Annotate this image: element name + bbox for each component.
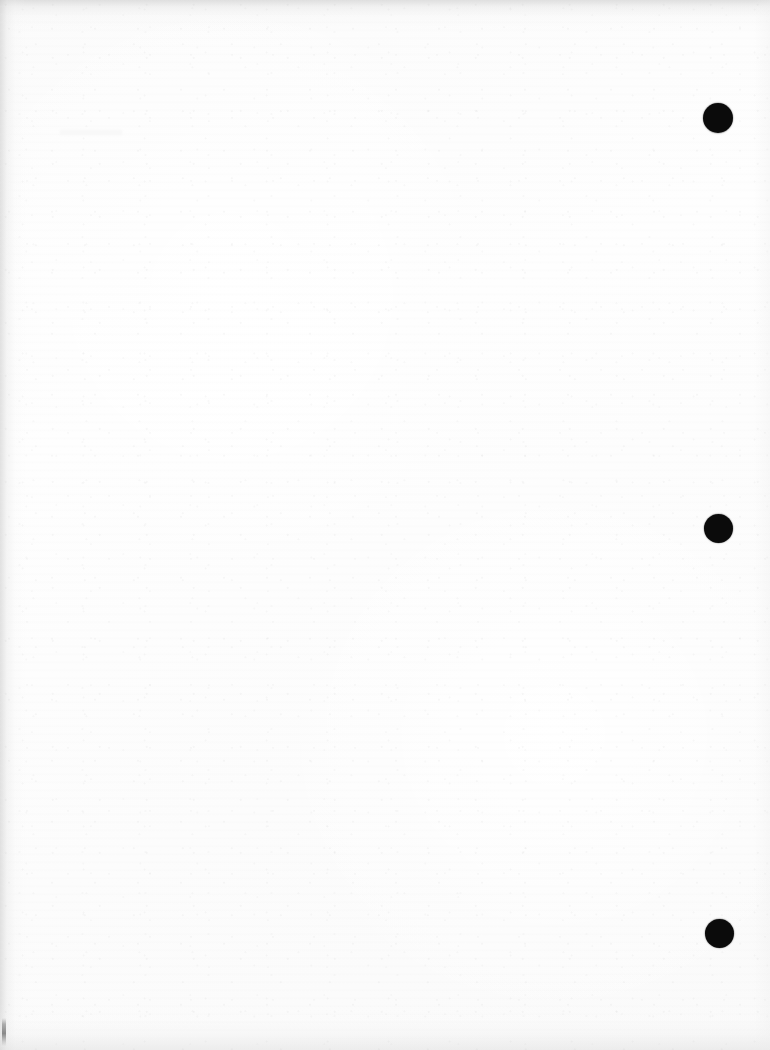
edge-tick-mark <box>2 1018 6 1046</box>
paper-grain-texture <box>0 0 770 1050</box>
scan-banding-texture <box>0 0 770 1050</box>
scan-edge-shadow-left <box>0 0 26 1050</box>
faint-smudge-mark <box>60 130 122 135</box>
scan-edge-shadow-top <box>0 0 770 30</box>
registration-dot <box>705 919 734 948</box>
scanned-page <box>0 0 770 1050</box>
scan-edge-shadow-bottom <box>0 1004 770 1050</box>
scan-edge-shadow-right <box>754 0 770 1050</box>
registration-dot <box>704 514 733 543</box>
registration-dot <box>703 103 733 133</box>
